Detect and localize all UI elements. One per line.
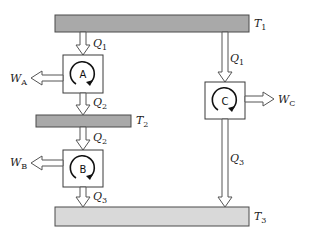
left-arrow-icon [31,71,63,85]
work-arrow-wb: WB [10,156,63,171]
q3-b-label: Q3 [93,190,107,205]
heat-arrow-q2-t2-to-b: Q2 [76,127,107,150]
reservoir-t2-label: T2 [136,114,148,129]
engine-a-label: A [80,69,87,80]
q2-a-label: Q2 [93,96,107,111]
reservoir-t1: T1 [55,15,266,32]
reservoir-t2: T2 [36,114,148,129]
engine-c-label: C [222,96,229,107]
q3-c-label: Q3 [230,152,244,167]
heat-engine-diagram: T1 T2 T3 Q1 A WA Q2 Q2 B [0,0,312,236]
heat-arrow-q2-a-to-t2: Q2 [76,93,107,115]
heat-arrow-q1-t1-to-c: Q1 [218,32,244,82]
down-arrow-icon [76,187,90,207]
work-arrow-wc: WC [245,92,295,108]
q2-b-label: Q2 [93,131,107,146]
reservoir-t1-bar [55,15,249,32]
reservoir-t3: T3 [55,207,266,226]
heat-arrow-q3-b-to-t3: Q3 [76,187,107,207]
right-arrow-icon [245,92,274,106]
down-arrow-icon [76,127,90,150]
engine-c: C [205,82,245,119]
left-arrow-icon [31,156,63,170]
wa-label: WA [10,72,27,87]
work-arrow-wa: WA [10,71,63,87]
engine-b-label: B [80,164,87,175]
q1-c-label: Q1 [230,52,244,67]
down-arrow-icon [76,32,90,55]
heat-arrow-q1-t1-to-a: Q1 [76,32,107,55]
q1-a-label: Q1 [93,37,107,52]
heat-arrow-q3-c-to-t3: Q3 [218,119,244,207]
reservoir-t1-label: T1 [254,17,266,32]
reservoir-t2-bar [36,115,131,127]
engine-b: B [63,150,103,187]
reservoir-t3-label: T3 [254,210,266,225]
wb-label: WB [10,156,27,171]
reservoir-t3-bar [55,207,249,226]
down-arrow-icon [76,93,90,115]
engine-a: A [63,55,103,93]
wc-label: WC [278,93,295,108]
